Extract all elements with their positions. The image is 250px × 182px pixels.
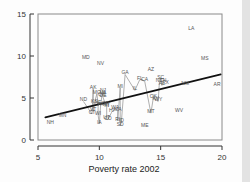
data-point-label: ME <box>141 122 149 128</box>
x-tick-label: 5 <box>36 153 41 162</box>
data-point-label: IL <box>133 85 137 91</box>
scatter-plot: LAMSMDNVAZGASCFLCANCTNTXNMARALMIAKILNJMO… <box>0 0 242 182</box>
page-edge-strip <box>242 0 250 182</box>
data-point-label: CA <box>141 76 149 82</box>
data-point-label: NM <box>181 80 189 86</box>
data-point-label: AZ <box>148 66 154 72</box>
data-point-label: MS <box>201 55 209 61</box>
x-tick-label: 10 <box>95 153 104 162</box>
x-tick-label: 15 <box>156 153 165 162</box>
data-point-label: NH <box>47 119 55 125</box>
data-point-label: MN <box>59 112 67 118</box>
data-point-label: AR <box>214 81 221 87</box>
y-tick-label: 15 <box>17 10 26 19</box>
data-point-label: NV <box>97 60 105 66</box>
data-point-label: GA <box>121 69 129 75</box>
data-point-label: OH <box>98 91 106 97</box>
data-point-label: HI <box>109 107 114 113</box>
data-point-label: MT <box>147 108 154 114</box>
data-point-label: CO <box>104 115 112 121</box>
data-point-label: WV <box>175 107 184 113</box>
data-point-label: AL <box>159 80 165 86</box>
data-point-label: MA <box>114 106 122 112</box>
data-point-label: IA <box>97 119 102 125</box>
y-tick-label: 5 <box>22 94 27 103</box>
chart-root: LAMSMDNVAZGASCFLCANCTNTXNMARALMIAKILNJMO… <box>0 0 250 182</box>
data-point-label: SD <box>117 121 124 127</box>
y-tick-label: 0 <box>22 136 27 145</box>
data-point-label: MD <box>82 54 90 60</box>
data-point-label: WY <box>154 96 163 102</box>
data-point-label: LA <box>188 25 195 31</box>
x-axis-title: Poverty rate 2002 <box>88 164 159 174</box>
data-point-label: MI <box>117 83 123 89</box>
x-tick-label: 20 <box>218 153 227 162</box>
chart-canvas: LAMSMDNVAZGASCFLCANCTNTXNMARALMIAKILNJMO… <box>0 0 242 182</box>
data-point-label: VT <box>90 106 96 112</box>
data-point-label: ND <box>80 96 88 102</box>
y-tick-label: 10 <box>17 52 26 61</box>
